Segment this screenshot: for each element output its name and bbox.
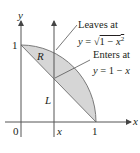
enters-at-equation: y = 1 − x — [93, 66, 130, 77]
origin-label: 0 — [13, 126, 19, 137]
region-r — [21, 45, 96, 122]
enters-at-title: Enters at — [93, 50, 130, 61]
leaves-at-title: Leaves at — [78, 20, 118, 31]
line-l-label: L — [45, 95, 51, 106]
diagram-canvas — [0, 0, 140, 153]
x-tick-one-label: 1 — [92, 126, 98, 137]
leaves-leader-line — [56, 25, 77, 50]
y-tick-one-label: 1 — [12, 40, 18, 51]
y-axis-label: y — [18, 10, 23, 21]
region-r-label: R — [37, 51, 44, 62]
x-position-label: x — [57, 126, 62, 137]
x-axis-label: x — [133, 116, 138, 127]
leaves-at-equation: y = √1 − x2 — [78, 35, 124, 47]
